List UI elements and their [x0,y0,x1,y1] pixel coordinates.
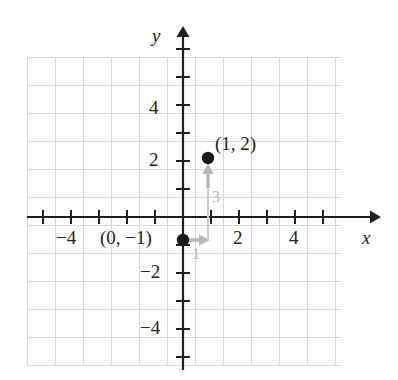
data-point-0-neg1 [177,234,189,246]
y-tick-label-neg2: −2 [140,262,160,281]
y-tick-label-2: 2 [149,150,159,169]
step-arrow-run [187,235,210,246]
step-label-rise: 3 [212,189,220,205]
coordinate-plane-graphic [0,0,398,380]
data-point-1-2 [202,152,214,164]
x-tick-label-4: 4 [289,228,299,247]
y-axis-label: y [152,26,160,45]
y-tick-label-4: 4 [149,98,159,117]
x-tick-label-neg4: −4 [56,228,76,247]
y-tick-label-neg4: −4 [140,318,160,337]
point-label-1-2: (1, 2) [215,134,256,153]
figure-canvas: y x 4 2 −2 −4 −4 2 4 (1, 2) (0, −1) 1 3 [0,0,398,380]
step-label-run: 1 [192,246,200,262]
x-axis-arrowhead [370,211,381,224]
axis-lines [27,36,370,370]
y-axis-arrowhead [177,26,190,37]
point-label-0-neg1: (0, −1) [100,228,152,247]
x-axis-label: x [362,228,370,247]
x-tick-label-2: 2 [233,228,243,247]
